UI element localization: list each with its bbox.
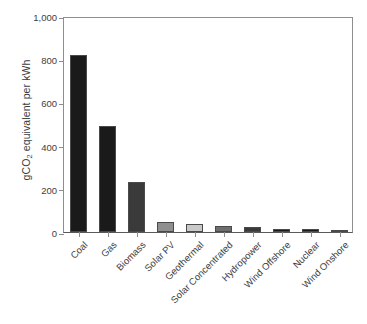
plot-area: 02004006008001,000 [63, 17, 353, 233]
y-axis-tick-label: 0 [52, 228, 57, 239]
x-axis-tick-mark [311, 232, 312, 237]
y-axis-tick-mark [59, 234, 64, 235]
x-axis-tick-mark [253, 232, 254, 237]
bar[interactable] [99, 126, 117, 232]
x-axis-tick-mark [166, 232, 167, 237]
bar-chart: gCO2 equivalent per kWh 02004006008001,0… [0, 0, 367, 324]
bar-slot [128, 18, 146, 232]
bar[interactable] [128, 182, 146, 232]
y-axis-title: gCO2 equivalent per kWh [20, 10, 34, 230]
bar[interactable] [157, 222, 175, 232]
y-axis-tick-label: 400 [41, 142, 57, 153]
y-axis-title-prefix: gCO [20, 159, 32, 181]
y-axis-title-subscript: 2 [25, 154, 34, 158]
bar[interactable] [186, 224, 204, 232]
bar-slot [215, 18, 233, 232]
x-axis-tick-mark [137, 232, 138, 237]
bar-slot [157, 18, 175, 232]
y-axis-tick-label: 600 [41, 98, 57, 109]
bar-slot [302, 18, 320, 232]
y-axis-title-suffix: equivalent per kWh [20, 60, 32, 155]
bar-slot [273, 18, 291, 232]
bar[interactable] [70, 55, 88, 232]
x-axis-tick-label: Coal [68, 239, 90, 261]
bar-slot [70, 18, 88, 232]
x-axis-tick-mark [340, 232, 341, 237]
bar-slot [99, 18, 117, 232]
x-axis-tick-mark [195, 232, 196, 237]
y-axis-tick-label: 1,000 [33, 12, 57, 23]
x-axis-tick-mark [224, 232, 225, 237]
bar-slot [244, 18, 262, 232]
x-axis-tick-label: Biomass [113, 239, 147, 273]
x-axis-tick-label: Gas [98, 239, 118, 259]
y-axis-tick-label: 800 [41, 55, 57, 66]
x-axis-tick-mark [108, 232, 109, 237]
bar-slot [186, 18, 204, 232]
bar-slot [331, 18, 349, 232]
y-axis-tick-label: 200 [41, 185, 57, 196]
bars-layer [64, 18, 352, 232]
x-axis-tick-mark [79, 232, 80, 237]
x-axis-tick-mark [282, 232, 283, 237]
